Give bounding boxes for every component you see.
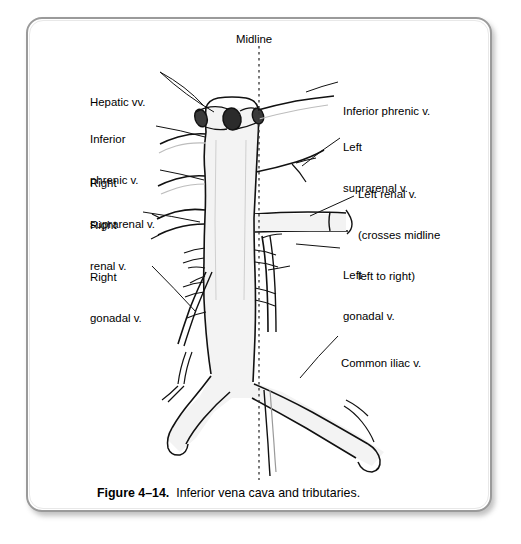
leader-inferior-phrenic-left xyxy=(156,126,205,137)
figure-page: Midline Hepatic vv. Inferior phrenic v. … xyxy=(0,0,521,544)
label-right-suprarenal-v-line1: Right xyxy=(90,177,155,191)
label-right-renal-v-line1: Right xyxy=(90,219,127,233)
right-inferior-phrenic-vein-lower xyxy=(159,143,206,153)
right-suprarenal-vein-lower xyxy=(161,184,205,194)
leader-common-iliac xyxy=(300,336,338,378)
label-right-gonadal-v-line1: Right xyxy=(90,271,142,285)
left-inferior-phrenic-vein xyxy=(258,96,334,110)
inferior-vena-cava-diagram xyxy=(0,0,521,544)
figure-caption-text: Inferior vena cava and tributaries. xyxy=(176,486,360,500)
left-renal-vein-superior-wall xyxy=(254,212,346,214)
left-suprarenal-vein xyxy=(256,150,324,172)
ivc-trunk-fill xyxy=(204,108,259,392)
left-gonadal-vein xyxy=(262,236,268,332)
left-gonadal-vein-second-wall xyxy=(270,236,276,332)
leader-right-gonadal xyxy=(152,266,196,312)
label-common-iliac-v-line1: Common iliac v. xyxy=(341,357,421,371)
label-left-renal-v-line1: Left renal v. xyxy=(358,188,440,202)
leader-hepatic-vv xyxy=(160,72,204,106)
right-renal-vein-upper xyxy=(157,209,205,219)
label-left-gonadal-v-line2: gonadal v. xyxy=(343,310,395,324)
left-renal-vein-fill xyxy=(255,214,346,231)
label-right-gonadal-v-line2: gonadal v. xyxy=(90,312,142,326)
leader-inferior-phrenic-right xyxy=(306,82,338,92)
label-left-renal-v-line2: (crosses midline xyxy=(358,229,440,243)
figure-caption-number: Figure 4–14. xyxy=(97,486,169,500)
label-inferior-phrenic-v-left-line1: Inferior xyxy=(90,133,139,147)
right-renal-vein-lower xyxy=(158,224,205,235)
label-left-gonadal-v-line1: Left xyxy=(343,269,395,283)
left-renal-vein-inferior-wall xyxy=(255,231,348,232)
right-internal-iliac-branches xyxy=(162,352,192,402)
label-common-iliac-v: Common iliac v. xyxy=(341,330,421,398)
label-right-gonadal-v: Right gonadal v. xyxy=(90,244,142,353)
figure-caption: Figure 4–14. Inferior vena cava and trib… xyxy=(97,486,360,500)
lumbar-veins-right xyxy=(183,248,206,318)
label-left-suprarenal-v-line1: Left xyxy=(343,141,408,155)
leader-left-gonadal xyxy=(296,244,340,248)
midline-label: Midline xyxy=(236,33,272,45)
leader-right-suprarenal xyxy=(160,170,204,180)
